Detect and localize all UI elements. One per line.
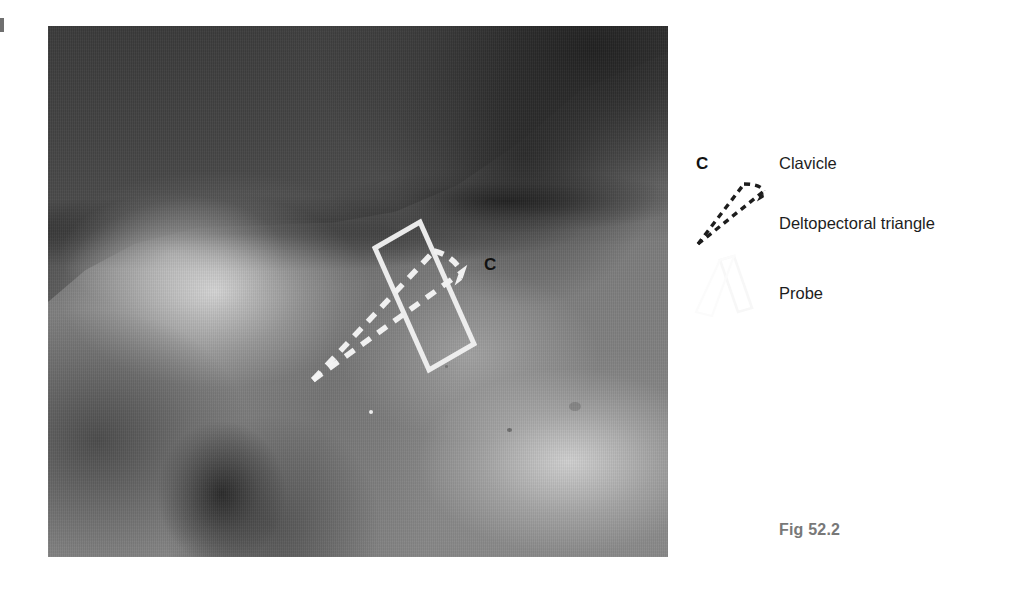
probe-outline [375,222,474,370]
legend-symbol-probe-outline-icon [690,254,774,326]
scan-edge-artifact [0,18,4,32]
legend-symbol-clavicle-letter: C [696,154,708,174]
legend-label-clavicle: Clavicle [779,154,837,173]
legend-label-deltopectoral-triangle: Deltopectoral triangle [779,214,935,233]
photo-clavicle-marker: C [484,255,496,275]
legend-label-probe: Probe [779,284,823,303]
figure-caption: Fig 52.2 [779,521,840,539]
clinical-photograph [48,26,668,557]
figure-page: C C Clavicle Deltopectoral triangle Prob… [0,0,1021,603]
photo-annotation-overlay [48,26,668,557]
legend-symbol-dashed-triangle-icon [690,180,774,252]
